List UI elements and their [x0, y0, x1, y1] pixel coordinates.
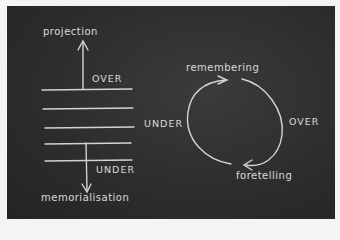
- over-label-left: OVER: [92, 73, 122, 84]
- over-label-right: OVER: [289, 116, 319, 127]
- under-label-left: UNDER: [96, 164, 135, 175]
- horizontal-line: [43, 108, 133, 109]
- remembering-label: remembering: [186, 62, 259, 73]
- horizontal-line: [42, 89, 132, 90]
- cycle-arc-left: [188, 80, 231, 164]
- cycle-arc-right: [242, 79, 282, 166]
- horizontal-line: [45, 127, 134, 128]
- horizontal-line: [45, 143, 131, 144]
- under-label-right: UNDER: [144, 118, 183, 129]
- memorialisation-label: memorialisation: [41, 192, 129, 203]
- horizontal-line: [45, 160, 132, 161]
- projection-label: projection: [43, 26, 98, 37]
- foretelling-label: foretelling: [236, 170, 292, 181]
